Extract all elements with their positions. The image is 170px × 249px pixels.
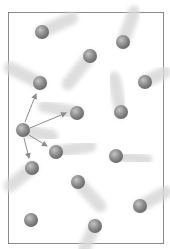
molecule: [109, 149, 123, 163]
velocity-arrow-icon: [30, 113, 66, 128]
velocity-arrow-icon: [24, 138, 29, 158]
molecule: [49, 145, 63, 159]
molecule: [70, 106, 84, 120]
molecule: [33, 76, 47, 90]
molecule: [133, 199, 147, 213]
molecule: [35, 25, 49, 39]
gas-molecules-diagram: [0, 0, 170, 249]
molecule: [116, 35, 130, 49]
velocity-arrow-icon: [25, 94, 36, 122]
molecule: [88, 219, 102, 233]
molecule: [71, 175, 85, 189]
molecule: [138, 75, 152, 89]
molecule: [24, 213, 38, 227]
molecule: [25, 161, 39, 175]
center-molecule: [16, 123, 30, 137]
molecule: [83, 49, 97, 63]
molecule: [114, 105, 128, 119]
